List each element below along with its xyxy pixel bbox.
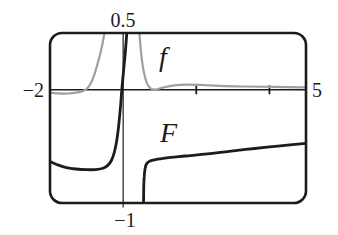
label-ymax: 0.5 — [111, 9, 136, 31]
viewing-window-border — [50, 33, 306, 203]
curve-F-left-branch — [50, 31, 127, 170]
label-xmin: −2 — [23, 79, 44, 101]
label-curve-f: f — [159, 41, 170, 72]
label-xmax: 5 — [312, 79, 322, 101]
curve-f-left-branch — [50, 31, 105, 94]
plot-svg: 0.5 −2 5 −1 f F — [0, 0, 338, 235]
curves-layer — [50, 31, 306, 203]
label-curve-F: F — [159, 117, 178, 148]
curve-F-right-branch — [144, 143, 307, 203]
label-ymin: −1 — [114, 209, 135, 231]
figure-calculator-graph: 0.5 −2 5 −1 f F — [0, 0, 338, 235]
